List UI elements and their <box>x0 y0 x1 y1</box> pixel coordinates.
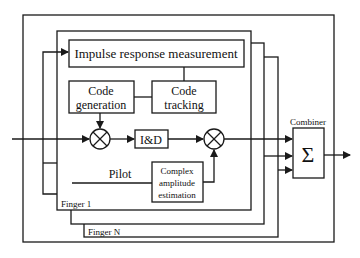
combiner-label: Combiner <box>290 117 326 127</box>
feed-line-lower <box>43 139 57 194</box>
integrate-dump-label: I&D <box>140 133 162 147</box>
pilot-label: Pilot <box>109 167 132 181</box>
code-track-label-2: tracking <box>164 98 203 112</box>
complex-label-3: estimation <box>158 190 196 200</box>
complex-label-1: Complex <box>161 166 194 176</box>
code-gen-label-2: generation <box>76 98 127 112</box>
finger-1-label: Finger 1 <box>61 199 91 209</box>
rake-receiver-diagram: Impulse response measurement Code genera… <box>0 0 360 258</box>
complex-label-2: amplitude <box>159 178 195 188</box>
code-gen-label-1: Code <box>88 84 113 98</box>
code-track-label-1: Code <box>171 84 196 98</box>
finger-n-label: Finger N <box>88 227 121 237</box>
sigma-icon: Σ <box>302 142 315 167</box>
impulse-response-label: Impulse response measurement <box>74 46 238 61</box>
